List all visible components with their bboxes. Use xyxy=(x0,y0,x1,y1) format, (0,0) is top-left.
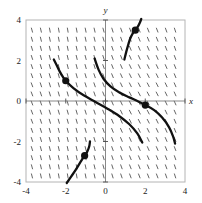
x-tick-label: -2 xyxy=(62,186,70,196)
y-tick-label: 0 xyxy=(17,96,22,106)
plot-canvas: -4-2024 -4-2024 x y xyxy=(0,0,202,203)
y-axis-title: y xyxy=(103,5,108,15)
slope-field-figure: -4-2024 -4-2024 x y xyxy=(0,0,202,203)
y-tick-label: -4 xyxy=(14,177,22,187)
equilibrium-point xyxy=(81,152,88,159)
x-tick-label: 2 xyxy=(143,186,148,196)
x-tick-label: -4 xyxy=(22,186,30,196)
equilibrium-point xyxy=(132,27,139,34)
x-axis-title: x xyxy=(188,96,193,106)
equilibrium-point xyxy=(142,101,149,108)
x-tick-label: 4 xyxy=(183,186,188,196)
x-tick-label: 0 xyxy=(103,186,108,196)
y-tick-label: 4 xyxy=(17,15,22,25)
y-tick-label: 2 xyxy=(17,56,22,66)
equilibrium-point xyxy=(62,77,69,84)
y-tick-label: -2 xyxy=(14,137,22,147)
